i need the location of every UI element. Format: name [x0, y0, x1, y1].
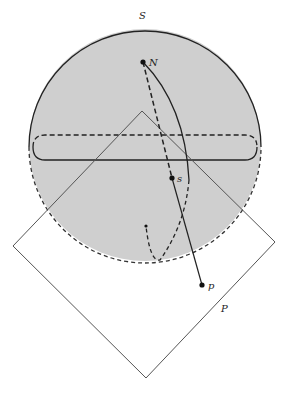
label-S: S [139, 10, 146, 21]
point-N [140, 59, 145, 64]
label-N: N [148, 57, 159, 68]
point-p [199, 282, 204, 287]
label-P: P [220, 303, 228, 314]
stereographic-diagram: S N s p P [0, 0, 289, 394]
label-p: p [208, 280, 215, 291]
label-s: s [177, 173, 182, 184]
point-s [169, 175, 174, 180]
point-lower [144, 224, 147, 227]
